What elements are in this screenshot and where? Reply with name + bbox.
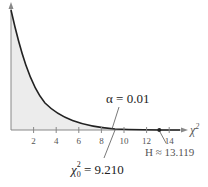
x-axis-arrow [181,128,188,133]
alpha-leader [112,107,119,129]
tick-label: 4 [54,136,59,146]
critical-value-leader [104,130,115,158]
alpha-label: α = 0.01 [106,91,149,106]
y-axis-arrow [9,2,14,9]
tick-label: 2 [31,136,36,146]
test-statistic-point [157,128,161,132]
tick-label: 12 [142,136,151,146]
x-axis-label: χ2 [189,122,199,137]
test-statistic-label: H ≈ 13.119 [145,146,195,158]
tick-label: 14 [165,136,175,146]
tick-label: 6 [77,136,82,146]
chi-square-chart: 2 4 6 8 10 12 14 χ2 α = 0.01 χ02 = 9.210… [0,0,208,187]
critical-value-label: χ02 = 9.210 [69,160,124,179]
tick-label: 10 [120,136,130,146]
tick-label: 8 [99,136,104,146]
shaded-region [11,10,115,130]
